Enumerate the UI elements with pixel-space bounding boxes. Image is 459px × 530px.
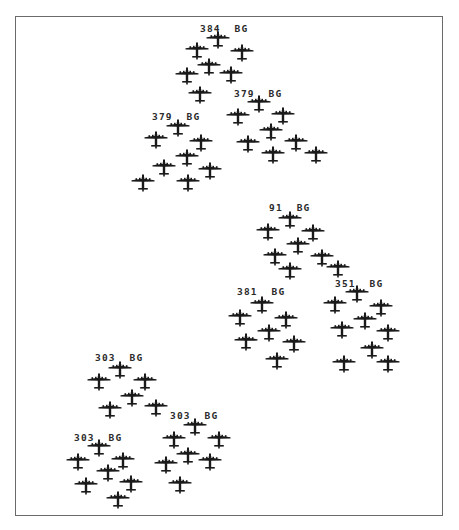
diagram-frame xyxy=(15,16,443,516)
